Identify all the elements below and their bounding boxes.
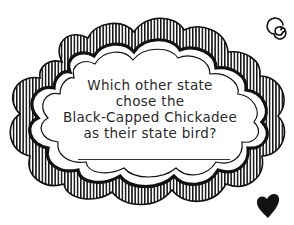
- answer-blank-line[interactable]: [78, 159, 230, 160]
- question-line-1: Which other state: [60, 77, 240, 93]
- question-line-3: Black-Capped Chickadee: [60, 109, 240, 125]
- question-line-2: chose the: [60, 93, 240, 109]
- spiral-icon: [267, 18, 286, 39]
- question-text: Which other state chose the Black-Capped…: [60, 77, 240, 141]
- question-line-4: as their state bird?: [60, 125, 240, 141]
- heart-icon: [257, 194, 279, 218]
